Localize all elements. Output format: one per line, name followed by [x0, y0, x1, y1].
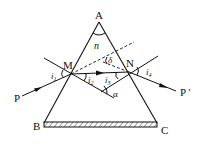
- label-N: N: [126, 57, 134, 69]
- prism-diagram: A B C M N P P ' n δ α i1 i2 i3 i4: [0, 0, 201, 147]
- label-n: n: [94, 40, 99, 51]
- internal-arrow-icon: [96, 71, 104, 76]
- label-C: C: [161, 124, 168, 136]
- angle-arc-i3: [116, 73, 118, 80]
- label-i1: i1: [51, 71, 57, 82]
- label-alpha: α: [113, 89, 118, 99]
- label-i3: i3: [105, 75, 111, 86]
- base-surface: [44, 122, 157, 127]
- emergent-ray: [129, 72, 176, 91]
- label-P: P: [14, 92, 20, 104]
- label-delta: δ: [108, 55, 113, 65]
- angle-arc-i2: [84, 74, 86, 82]
- label-A: A: [95, 9, 103, 21]
- emergent-arrow-icon: [159, 83, 168, 88]
- incident-arrow-icon: [34, 87, 42, 92]
- label-i2: i2: [88, 75, 94, 86]
- label-B: B: [33, 120, 40, 132]
- incident-extension-dashed: [71, 42, 134, 74]
- angle-arc-delta: [106, 57, 108, 64]
- label-P-prime: P ': [180, 86, 190, 98]
- label-i4: i4: [146, 67, 152, 78]
- apex-angle-arc: [93, 33, 105, 35]
- label-M: M: [63, 59, 73, 71]
- angle-arc-i4: [137, 67, 139, 75]
